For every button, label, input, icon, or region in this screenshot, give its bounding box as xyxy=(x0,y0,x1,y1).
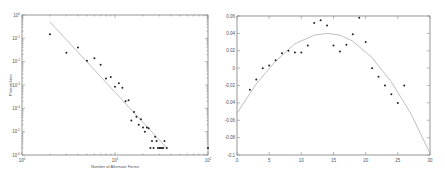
fit-curve xyxy=(237,33,430,153)
data-point xyxy=(384,85,386,87)
data-point xyxy=(149,147,151,149)
data-point xyxy=(135,116,137,118)
parabola-scatter-chart: 0510152025300.060.040.020-0.02-0.04-0.06… xyxy=(222,0,445,176)
y-tick-label: 10-4 xyxy=(12,105,20,111)
data-point xyxy=(358,17,360,19)
data-point xyxy=(49,33,51,35)
data-point xyxy=(371,67,373,69)
data-point xyxy=(142,127,144,129)
plot-frame xyxy=(22,15,208,155)
x-tick-label: 20 xyxy=(363,158,369,163)
data-point xyxy=(207,147,209,149)
data-point xyxy=(281,52,283,54)
x-tick-label: 10 xyxy=(299,158,305,163)
data-point xyxy=(138,124,140,126)
data-point xyxy=(294,51,296,53)
fit-line xyxy=(50,22,167,148)
data-point xyxy=(333,45,335,47)
data-point xyxy=(287,50,289,52)
data-point xyxy=(156,140,158,142)
y-tick-label: 10-2 xyxy=(12,58,20,64)
x-tick-label: 30 xyxy=(427,158,433,163)
x-tick-label: 101 xyxy=(112,157,119,163)
x-tick-label: 15 xyxy=(331,158,337,163)
data-point xyxy=(153,147,155,149)
data-point xyxy=(140,118,142,120)
data-point xyxy=(268,65,270,67)
x-axis-label: Number of Alternate Forms xyxy=(91,164,139,169)
data-point xyxy=(148,127,150,129)
data-point xyxy=(118,82,120,84)
right-chart-panel: 0510152025300.060.040.020-0.02-0.04-0.06… xyxy=(222,0,445,176)
data-point xyxy=(146,127,148,129)
x-tick-label: 0 xyxy=(236,158,239,163)
y-tick-label: -0.04 xyxy=(225,100,236,105)
loglog-scatter-chart: 10010110210010-110-210-310-410-510-6Numb… xyxy=(0,0,222,176)
data-point xyxy=(121,87,123,89)
data-point xyxy=(307,45,309,47)
data-point xyxy=(345,44,347,46)
data-point xyxy=(128,99,130,101)
data-point xyxy=(154,136,156,138)
data-point xyxy=(162,147,164,149)
x-tick-label: 102 xyxy=(205,157,212,163)
data-point xyxy=(86,60,88,62)
x-tick-label: 25 xyxy=(395,158,401,163)
data-point xyxy=(144,131,146,133)
data-point xyxy=(397,102,399,104)
data-point xyxy=(313,22,315,24)
y-tick-label: 100 xyxy=(13,12,20,18)
y-tick-label: 10-6 xyxy=(12,152,20,158)
data-point xyxy=(326,25,328,27)
data-point xyxy=(390,93,392,95)
data-point xyxy=(166,147,168,149)
data-point xyxy=(339,51,341,53)
plot-frame xyxy=(237,16,430,155)
x-tick-label: 5 xyxy=(268,158,271,163)
data-point xyxy=(110,76,112,78)
data-point xyxy=(105,77,107,79)
left-chart-panel: 10010110210010-110-210-310-410-510-6Numb… xyxy=(0,0,222,176)
data-point xyxy=(262,67,264,69)
data-point xyxy=(255,78,257,80)
data-point xyxy=(65,52,67,54)
y-tick-label: 0 xyxy=(232,66,235,71)
data-point xyxy=(151,140,153,142)
data-point xyxy=(100,64,102,66)
y-tick-label: 10-1 xyxy=(12,35,20,41)
data-point xyxy=(93,57,95,59)
data-point xyxy=(125,100,127,102)
data-point xyxy=(77,47,79,49)
x-tick-label: 100 xyxy=(19,157,26,163)
data-point xyxy=(275,59,277,61)
data-point xyxy=(378,76,380,78)
data-point xyxy=(320,19,322,21)
data-point xyxy=(300,51,302,53)
y-tick-label: -0.1 xyxy=(227,153,235,158)
y-tick-label: -0.06 xyxy=(225,118,236,123)
y-tick-label: -0.02 xyxy=(225,83,236,88)
data-point xyxy=(114,86,116,88)
data-point xyxy=(249,89,251,91)
data-point xyxy=(352,33,354,35)
data-point xyxy=(163,140,165,142)
data-point xyxy=(365,41,367,43)
data-point xyxy=(130,120,132,122)
y-tick-label: 10-3 xyxy=(12,82,20,88)
data-point xyxy=(403,85,405,87)
y-axis-label: Probabilities xyxy=(8,74,13,96)
y-tick-label: 0.06 xyxy=(226,14,235,19)
y-tick-label: 10-5 xyxy=(12,128,20,134)
y-tick-label: 0.02 xyxy=(226,48,235,53)
y-tick-label: -0.08 xyxy=(225,135,236,140)
y-tick-label: 0.04 xyxy=(226,31,235,36)
data-point xyxy=(133,111,135,113)
